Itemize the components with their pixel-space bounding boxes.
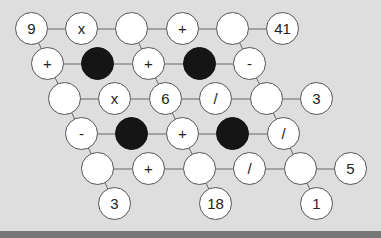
operator-cell: /	[233, 152, 266, 185]
operator-cell: +	[31, 47, 64, 80]
operator-cell: +	[132, 47, 165, 80]
empty-cell-input[interactable]	[183, 152, 216, 185]
operator-cell: -	[65, 117, 98, 150]
operator-cell: -	[233, 47, 266, 80]
operator-cell: +	[166, 117, 199, 150]
blocked-cell	[81, 47, 114, 80]
empty-cell-input[interactable]	[48, 82, 81, 115]
blocked-cell	[216, 117, 249, 150]
number-cell: 9	[15, 12, 48, 45]
number-cell: 41	[266, 12, 299, 45]
operator-cell: x	[65, 12, 98, 45]
empty-cell-input[interactable]	[81, 152, 114, 185]
number-cell: 1	[300, 187, 333, 220]
number-cell: 6	[149, 82, 182, 115]
bottom-bar	[0, 231, 381, 238]
operator-cell: /	[267, 117, 300, 150]
number-cell: 3	[300, 82, 333, 115]
blocked-cell	[183, 47, 216, 80]
operator-cell: +	[132, 152, 165, 185]
empty-cell-input[interactable]	[115, 12, 148, 45]
number-cell: 3	[98, 187, 131, 220]
empty-cell-input[interactable]	[284, 152, 317, 185]
empty-cell-input[interactable]	[216, 12, 249, 45]
number-cell: 18	[199, 187, 232, 220]
operator-cell: +	[166, 12, 199, 45]
empty-cell-input[interactable]	[250, 82, 283, 115]
operator-cell: /	[199, 82, 232, 115]
number-cell: 5	[334, 152, 367, 185]
puzzle-board: 9x+41++-x6/3-+/+/53181	[0, 0, 381, 231]
blocked-cell	[115, 117, 148, 150]
operator-cell: x	[98, 82, 131, 115]
